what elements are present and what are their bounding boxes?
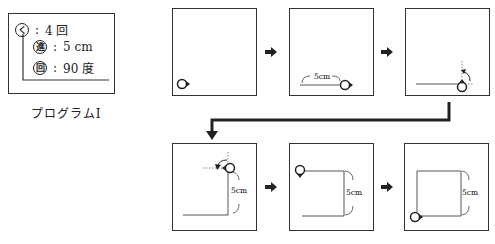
distance-label: 5cm [462, 188, 478, 197]
step-panel-1 [172, 8, 257, 96]
arrow-down-icon [206, 131, 218, 140]
step-panel-6: 5cm [404, 143, 489, 231]
distance-label: 5cm [231, 186, 247, 195]
distance-label: 5cm [346, 188, 362, 197]
step-panel-4: 5cm [172, 143, 257, 231]
step-panel-5: 5cm [289, 143, 374, 231]
distance-label: 5cm [314, 72, 330, 81]
step-panel-3 [405, 8, 490, 96]
step-panel-2: 5cm [289, 8, 374, 96]
